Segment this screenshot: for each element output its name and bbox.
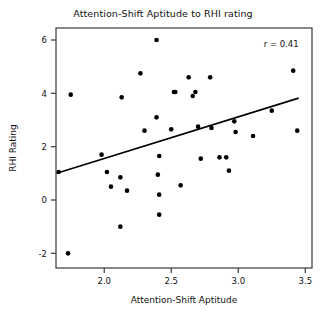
y-axis-ticks: -20246 (39, 35, 56, 258)
x-tick-label: 3.0 (232, 276, 246, 286)
y-tick-label: -2 (39, 249, 47, 259)
data-point (142, 128, 147, 133)
plot-frame (56, 28, 312, 268)
x-axis-ticks: 2.02.53.03.5 (97, 268, 312, 286)
data-point (109, 184, 114, 189)
fit-line (57, 98, 299, 173)
data-point (118, 224, 123, 229)
data-point (227, 168, 232, 173)
data-point (251, 134, 256, 139)
x-tick-label: 2.5 (165, 276, 179, 286)
data-point (157, 212, 162, 217)
data-point (269, 108, 274, 113)
y-tick-label: 6 (42, 35, 47, 45)
data-point (156, 172, 161, 177)
x-axis-title: Attention-Shift Aptitude (131, 295, 238, 305)
data-point (119, 95, 124, 100)
data-point (157, 154, 162, 159)
annotation-text: r = 0.41 (264, 39, 299, 49)
data-point (105, 170, 110, 175)
data-point (190, 94, 195, 99)
data-point (291, 68, 296, 73)
data-point (66, 251, 71, 256)
y-tick-label: 2 (42, 142, 47, 152)
correlation-annotation: r = 0.41 (264, 39, 299, 49)
data-point (186, 75, 191, 80)
data-points (56, 38, 299, 256)
data-point (233, 130, 238, 135)
y-tick-label: 0 (42, 195, 47, 205)
data-point (154, 38, 159, 43)
data-point (178, 183, 183, 188)
data-point (118, 175, 123, 180)
data-point (154, 115, 159, 120)
data-point (224, 155, 229, 160)
data-point (193, 90, 198, 95)
data-point (138, 71, 143, 76)
data-point (157, 192, 162, 197)
regression-line (57, 98, 299, 173)
data-point (125, 188, 130, 193)
data-point (99, 152, 104, 157)
data-point (208, 75, 213, 80)
data-point (217, 155, 222, 160)
data-point (173, 90, 178, 95)
data-point (198, 156, 203, 161)
y-axis-title: RHI Rating (8, 124, 18, 172)
plot-canvas: 2.02.53.03.5 -20246 r = 0.41 Attention-S… (0, 0, 326, 314)
y-tick-label: 4 (42, 89, 47, 99)
data-point (295, 128, 300, 133)
data-point (68, 92, 73, 97)
data-point (232, 119, 237, 124)
data-point (169, 127, 174, 132)
scatter-plot-figure: Attention-Shift Aptitude to RHI rating 2… (0, 0, 326, 314)
x-tick-label: 3.5 (299, 276, 313, 286)
x-tick-label: 2.0 (97, 276, 111, 286)
